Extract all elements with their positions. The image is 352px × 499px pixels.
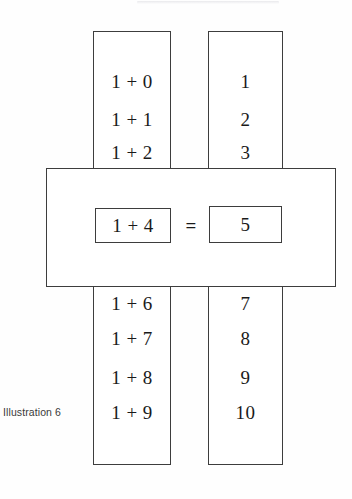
equals-sign: = (177, 208, 205, 243)
expression-cell: 1 + 8 (93, 366, 171, 388)
expression-cell: 1 + 9 (93, 401, 171, 423)
highlighted-expression-box[interactable]: 1 + 4 (95, 208, 171, 243)
result-cell: 3 (208, 141, 283, 163)
expression-cell: 1 + 0 (93, 70, 171, 92)
result-cell: 10 (208, 401, 283, 423)
expression-cell: 1 + 2 (93, 141, 171, 163)
result-cell: 9 (208, 366, 283, 388)
expression-cell: 1 + 6 (93, 292, 171, 314)
expression-cell: 1 + 7 (93, 327, 171, 349)
figure-caption: Illustration 6 (3, 406, 61, 418)
scan-artifact (137, 1, 279, 4)
result-cell: 8 (208, 327, 283, 349)
result-cell: 7 (208, 292, 283, 314)
illustration-canvas: 1 + 0 1 + 1 1 + 2 1 2 3 1 + 4 = 5 1 + 6 … (0, 0, 352, 499)
expression-cell: 1 + 1 (93, 108, 171, 130)
result-cell: 1 (208, 70, 283, 92)
highlighted-result-box[interactable]: 5 (209, 206, 282, 243)
result-cell: 2 (208, 108, 283, 130)
